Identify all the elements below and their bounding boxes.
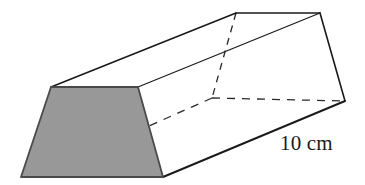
length-dimension-label: 10 cm bbox=[280, 133, 333, 154]
trapezoidal-prism-figure: 10 cm bbox=[0, 0, 365, 185]
shaded-trapezoid-face bbox=[21, 87, 163, 177]
prism-drawing bbox=[0, 0, 365, 185]
